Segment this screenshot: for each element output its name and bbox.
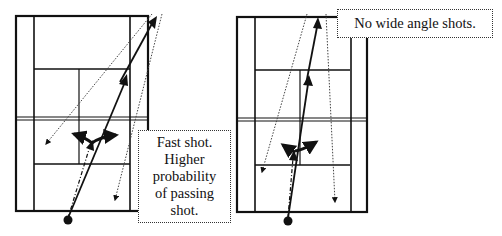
- callout-no-wide-angle: No wide angle shots.: [337, 9, 493, 38]
- move-left-arrow-icon: [74, 134, 92, 143]
- player-start-dot: [64, 216, 73, 225]
- callout-fast-shot: Fast shot. Higher probability of passing…: [138, 130, 231, 223]
- dotted-arrow-downline: [326, 14, 335, 202]
- callout-line: probability: [153, 168, 217, 185]
- callout-line: shot.: [153, 202, 217, 219]
- move-right-arrow-icon: [92, 135, 116, 143]
- callout-line: of passing: [153, 185, 217, 202]
- player-start-dot: [284, 217, 293, 226]
- shot-path-lower: [68, 82, 125, 218]
- shot-path-upper: [306, 22, 318, 84]
- move-left-arrow-icon: [283, 145, 295, 152]
- arrow-head-top-icon: [313, 17, 322, 29]
- right-court: [237, 14, 367, 226]
- callout-line: Higher: [153, 151, 217, 168]
- callout-line: Fast shot.: [153, 134, 217, 151]
- callout-line: No wide angle shots.: [354, 15, 476, 32]
- court-outline: [237, 17, 367, 212]
- dotted-arrow-crosscourt: [46, 14, 152, 144]
- court-outline: [16, 16, 148, 211]
